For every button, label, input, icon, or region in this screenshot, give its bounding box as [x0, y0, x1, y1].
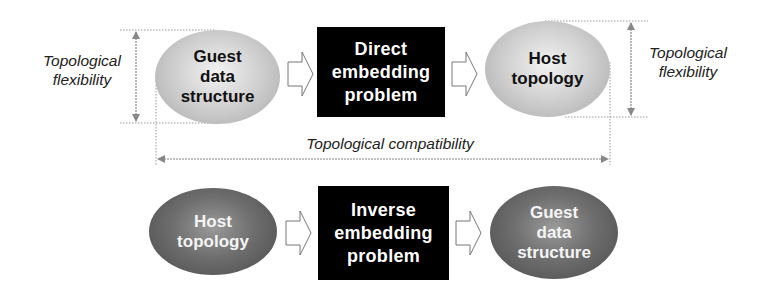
right-flexibility-label: Topological flexibility: [636, 43, 740, 81]
host-topology-node-inverse: Host topology: [149, 188, 277, 275]
block-arrow-icon: [456, 211, 481, 255]
block-arrow-icon: [288, 52, 313, 96]
node-label: Host topology: [512, 49, 584, 89]
block-arrow-icon: [452, 52, 477, 96]
compatibility-label: Topological compatibility: [280, 134, 500, 153]
guest-data-structure-node: Guest data structure: [155, 30, 280, 124]
direct-embedding-problem-box: Direct embedding problem: [317, 27, 445, 117]
box-label: Inverse embedding problem: [334, 199, 433, 268]
guest-data-structure-node-inverse: Guest data structure: [490, 186, 618, 279]
box-label: Direct embedding problem: [332, 38, 431, 107]
node-label: Guest data structure: [181, 47, 255, 107]
inverse-embedding-problem-box: Inverse embedding problem: [318, 186, 449, 280]
host-topology-node: Host topology: [485, 21, 610, 117]
node-label: Host topology: [177, 212, 249, 252]
block-arrow-icon: [286, 211, 311, 255]
left-flexibility-label: Topological flexibility: [30, 51, 134, 89]
node-label: Guest data structure: [517, 203, 591, 263]
